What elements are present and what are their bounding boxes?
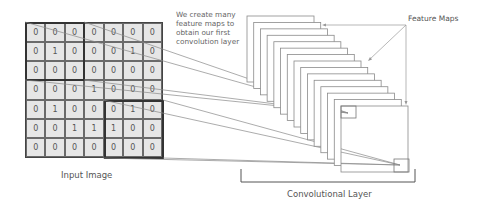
cnn-diagram: 0000000010001000000000001000010001000111…: [0, 0, 480, 209]
feature-map: [341, 106, 408, 172]
feature-maps-graphic: [0, 0, 480, 209]
convolutional-layer-label: Convolutional Layer: [287, 189, 372, 199]
feature-maps-label: Feature Maps: [408, 14, 458, 23]
